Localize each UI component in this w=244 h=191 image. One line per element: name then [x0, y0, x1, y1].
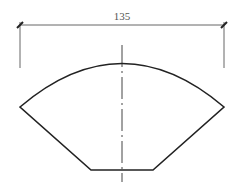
sector-drawing: 135	[0, 0, 244, 191]
dimension-label: 135	[114, 10, 131, 22]
